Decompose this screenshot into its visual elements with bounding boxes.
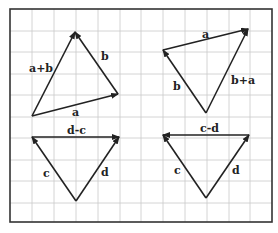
- vector-label: a: [72, 106, 79, 119]
- vector-label: c-d: [200, 122, 219, 135]
- vector-label: d: [232, 164, 240, 177]
- vector-label: c: [43, 167, 50, 180]
- grid-lines: [10, 9, 272, 222]
- vector-label: a: [202, 28, 209, 41]
- vector-label: a+b: [29, 62, 53, 75]
- vector-label: b+a: [231, 74, 255, 87]
- vector-label: c: [174, 164, 181, 177]
- triangle-top-right: abb+a: [163, 28, 255, 113]
- vector-arrow-d: [76, 137, 119, 201]
- vector-triangles: aba+babb+ad-ccdc-dcd: [29, 28, 255, 201]
- triangle-bottom-left: d-ccd: [32, 124, 119, 201]
- vector-label: d-c: [67, 124, 86, 137]
- vector-addition-diagram: aba+babb+ad-ccdc-dcd: [0, 0, 278, 233]
- vector-label: b: [173, 80, 181, 93]
- vector-label: b: [101, 50, 109, 63]
- vector-arrow-b: [163, 50, 206, 113]
- vector-arrow-d: [206, 135, 249, 198]
- vector-arrow-bplusa: [206, 29, 248, 113]
- vector-arrow-b: [75, 32, 118, 94]
- triangle-top-left: aba+b: [29, 32, 118, 119]
- vector-label: d: [101, 166, 109, 179]
- vector-arrow-c: [163, 135, 206, 198]
